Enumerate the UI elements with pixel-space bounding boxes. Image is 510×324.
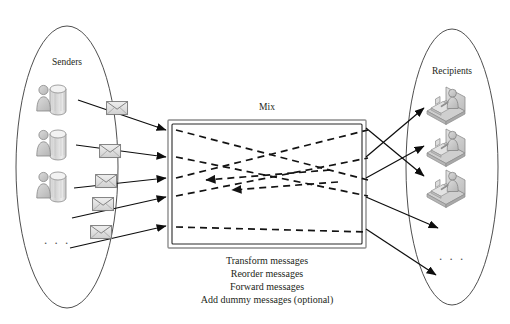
- envelope-icon-5: [91, 226, 112, 239]
- envelope-icon-2: [100, 145, 121, 158]
- mix-to-recipient-arrows: [366, 108, 438, 275]
- recipient-arrow-2: [366, 108, 424, 157]
- senders-ellipse: [16, 26, 118, 308]
- recipient-arrow-3: [366, 146, 424, 178]
- sender-arrow-5: [70, 226, 166, 248]
- recipient-icon-1: [427, 87, 465, 125]
- recipient-arrow-4: [366, 197, 438, 228]
- mix-operation-3: Forward messages: [230, 281, 304, 292]
- mix-box-inner: [172, 124, 362, 244]
- recipients-ellipsis: . . .: [439, 248, 465, 263]
- sender-icon-1: [37, 85, 66, 115]
- recipient-icon-3: [427, 170, 465, 208]
- recipient-arrow-1: [366, 128, 424, 176]
- envelope-icon-1: [107, 102, 128, 115]
- recipient-arrow-5: [366, 229, 436, 275]
- recipients-label: Recipients: [432, 66, 472, 76]
- mix-operation-4: Add dummy messages (optional): [201, 294, 333, 306]
- mix-operation-1: Transform messages: [226, 255, 308, 266]
- recipient-icon-2: [427, 129, 465, 167]
- envelope-icon-4: [93, 198, 114, 211]
- sender-icon-3: [37, 172, 66, 202]
- sender-arrow-3: [74, 178, 166, 188]
- senders-ellipsis: . . .: [44, 232, 70, 247]
- envelope-icon-3: [96, 175, 117, 188]
- mix-operation-2: Reorder messages: [231, 268, 304, 279]
- sender-arrow-4: [72, 197, 166, 218]
- diagram-svg: Senders Recipients Mix . . . . . . Trans…: [0, 0, 510, 324]
- senders-label: Senders: [52, 57, 82, 67]
- sender-icon-2: [37, 130, 66, 160]
- mix-label: Mix: [259, 102, 275, 112]
- diagram-canvas: Senders Recipients Mix . . . . . . Trans…: [0, 0, 510, 324]
